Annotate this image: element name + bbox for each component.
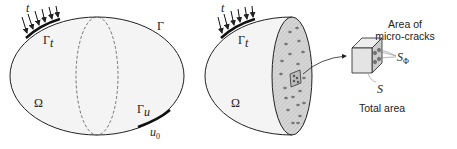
load-label-right: t	[221, 1, 225, 15]
boundary-label: Γ	[157, 19, 164, 33]
total-area-symbol: S	[377, 82, 383, 96]
microcrack-label-line2: micro-cracks	[375, 30, 435, 42]
representative-volume-cube	[352, 38, 396, 82]
right-body	[205, 6, 346, 135]
total-area-label: Total area	[359, 102, 405, 114]
diagram-canvas: t Γt Γ Ω Γu u0	[0, 0, 457, 149]
domain-label-right: Ω	[231, 96, 240, 110]
microcrack-label-line1: Area of	[388, 18, 422, 30]
domain-label: Ω	[34, 96, 43, 110]
load-label: t	[26, 1, 30, 15]
microcrack-symbol: SΦ	[397, 50, 409, 66]
displacement-value-label: u0	[150, 125, 160, 141]
